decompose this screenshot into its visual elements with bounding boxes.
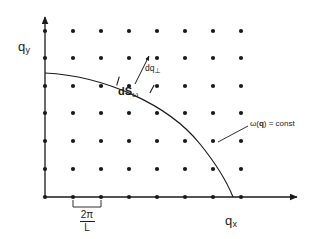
- lattice-point: [43, 111, 47, 115]
- lattice-point: [155, 29, 159, 33]
- contour-label-leader-line: [218, 126, 248, 142]
- lattice-point: [239, 56, 243, 60]
- reciprocal-lattice-points: [43, 29, 243, 199]
- lattice-point: [43, 29, 47, 33]
- lattice-point: [183, 139, 187, 143]
- lattice-point: [71, 111, 75, 115]
- lattice-point: [127, 111, 131, 115]
- lattice-point: [71, 84, 75, 88]
- normal-increment-label-subscript: ⊥: [154, 67, 160, 74]
- surface-element-label-subscript: ω: [132, 90, 138, 99]
- lattice-point: [43, 139, 47, 143]
- surface-element-label-text: dS: [118, 85, 132, 97]
- lattice-point: [99, 56, 103, 60]
- lattice-point: [71, 29, 75, 33]
- lattice-point: [43, 56, 47, 60]
- lattice-point: [99, 195, 103, 199]
- lattice-point: [43, 84, 47, 88]
- lattice-point: [211, 139, 215, 143]
- lattice-point: [183, 111, 187, 115]
- lattice-point: [239, 167, 243, 171]
- lattice-point: [239, 111, 243, 115]
- normal-increment-label: dq⊥: [145, 64, 161, 74]
- lattice-point: [211, 111, 215, 115]
- lattice-point: [183, 56, 187, 60]
- x-axis-label: qx: [225, 214, 237, 229]
- contour-label: ω(q) = const: [250, 120, 295, 128]
- x-axis-label-subscript: x: [232, 219, 237, 229]
- reciprocal-space-diagram: qy qx dSω dq⊥ ω(q) = const 2π L: [0, 0, 317, 239]
- lattice-point: [239, 29, 243, 33]
- lattice-point: [71, 167, 75, 171]
- lattice-point: [127, 167, 131, 171]
- y-axis-label: qy: [18, 40, 30, 55]
- lattice-point: [155, 84, 159, 88]
- lattice-point: [155, 56, 159, 60]
- lattice-point: [155, 167, 159, 171]
- lattice-point: [99, 167, 103, 171]
- lattice-point: [183, 195, 187, 199]
- lattice-point: [211, 84, 215, 88]
- lattice-spacing-label: 2π L: [73, 210, 101, 233]
- lattice-point: [155, 111, 159, 115]
- lattice-point: [71, 195, 75, 199]
- segment-tick-right: [150, 85, 154, 93]
- contour-label-omega: ω(: [250, 119, 259, 128]
- lattice-point: [211, 56, 215, 60]
- lattice-point: [127, 56, 131, 60]
- constant-frequency-curve: [45, 73, 233, 197]
- surface-element-label: dSω: [118, 86, 138, 99]
- lattice-point: [239, 84, 243, 88]
- lattice-point: [127, 195, 131, 199]
- lattice-point: [239, 195, 243, 199]
- lattice-point: [183, 29, 187, 33]
- lattice-point: [71, 56, 75, 60]
- lattice-point: [211, 167, 215, 171]
- lattice-spacing-numerator: 2π: [73, 210, 101, 220]
- lattice-point: [43, 195, 47, 199]
- lattice-point: [71, 139, 75, 143]
- y-axis-label-subscript: y: [25, 45, 30, 55]
- lattice-point: [43, 167, 47, 171]
- lattice-point: [155, 195, 159, 199]
- lattice-point: [127, 29, 131, 33]
- lattice-spacing-denominator: L: [73, 223, 101, 233]
- lattice-point: [239, 139, 243, 143]
- lattice-point: [99, 111, 103, 115]
- lattice-point: [183, 167, 187, 171]
- lattice-point: [183, 84, 187, 88]
- lattice-point: [155, 139, 159, 143]
- lattice-point: [127, 139, 131, 143]
- contour-label-tail: ) = const: [264, 119, 295, 128]
- lattice-point: [99, 29, 103, 33]
- lattice-point: [211, 195, 215, 199]
- lattice-point: [99, 84, 103, 88]
- lattice-spacing-bracket: [73, 200, 101, 207]
- lattice-point: [99, 139, 103, 143]
- lattice-point: [211, 29, 215, 33]
